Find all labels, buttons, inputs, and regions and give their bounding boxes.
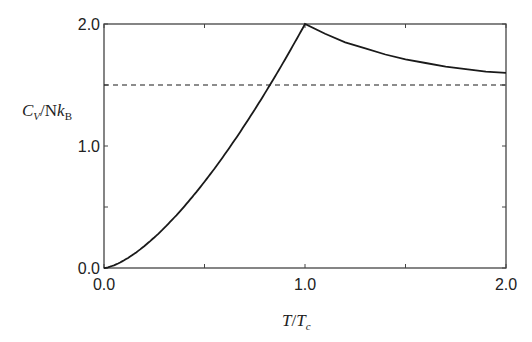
y-tick-label: 2.0 (78, 16, 100, 33)
data-series (104, 24, 506, 268)
tick-labels: 0.01.02.00.01.02.0 (78, 16, 517, 293)
x-tick-label: 2.0 (495, 276, 517, 293)
y-tick-label: 0.0 (78, 260, 100, 277)
heat-capacity-curve (104, 24, 506, 268)
x-tick-label: 1.0 (294, 276, 316, 293)
y-axis-label: CV/NkB (22, 101, 72, 122)
axis-ticks (104, 24, 506, 268)
plot-frame (104, 24, 506, 268)
y-tick-label: 1.0 (78, 138, 100, 155)
x-tick-label: 0.0 (93, 276, 115, 293)
plot: 0.01.02.00.01.02.0 CV/NkB T/Tc (0, 0, 532, 342)
x-axis-label: T/Tc (282, 311, 311, 332)
